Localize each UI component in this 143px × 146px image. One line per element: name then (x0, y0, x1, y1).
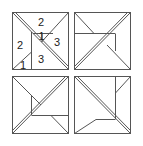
piece-label: 1 (20, 59, 26, 71)
diagonal-line (75, 120, 97, 134)
panel-bottom-right (75, 77, 131, 134)
piece-label: 2 (17, 39, 23, 51)
diagonal-line (51, 116, 69, 134)
piece-label: 2 (38, 16, 44, 28)
puzzle-figure: 2 1 3 2 3 1 (0, 0, 143, 146)
diagonal-line (75, 13, 95, 34)
panel-top-right (75, 13, 131, 70)
piece-label: 1 (39, 30, 45, 42)
diagonal-line (107, 45, 131, 70)
panel-top-left: 2 1 3 2 3 1 (13, 13, 69, 72)
piece-label: 3 (54, 36, 60, 48)
piece-label: 3 (38, 53, 44, 65)
diagonal-line (116, 77, 131, 94)
diagonal-line (13, 77, 42, 106)
panel-bottom-left (13, 77, 69, 134)
